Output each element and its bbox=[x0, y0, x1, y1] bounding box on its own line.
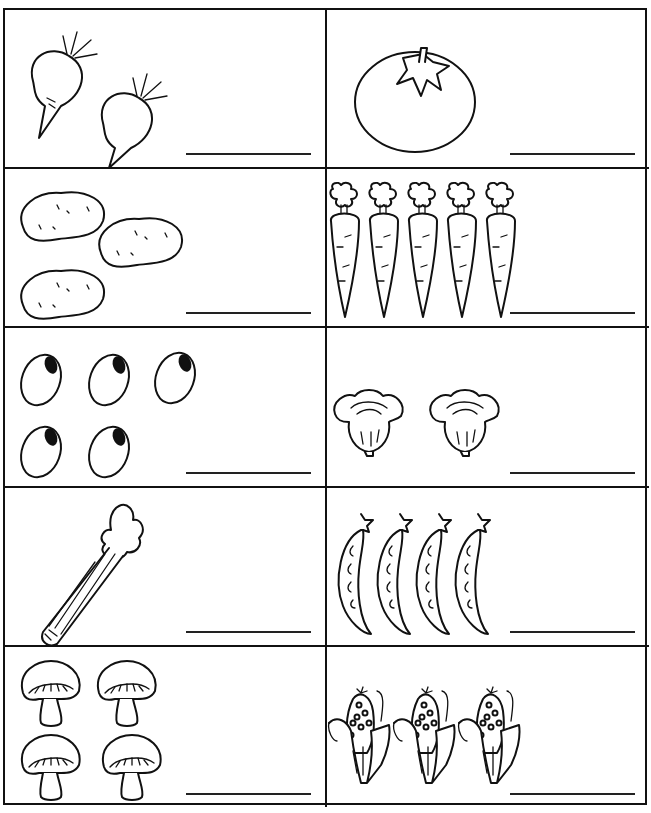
mushroom-icon bbox=[17, 733, 83, 803]
cell-tomato bbox=[327, 10, 649, 169]
cell-potatoes bbox=[5, 169, 327, 328]
carrot-icon bbox=[327, 181, 363, 321]
tomato-icon bbox=[353, 44, 479, 156]
answer-line[interactable] bbox=[186, 631, 311, 633]
answer-line[interactable] bbox=[510, 312, 635, 314]
lettuce-icon bbox=[331, 386, 407, 458]
answer-line[interactable] bbox=[510, 153, 635, 155]
carrot-icon bbox=[405, 181, 441, 321]
corn-icon bbox=[392, 687, 458, 791]
beet-icon bbox=[21, 26, 101, 136]
carrot-group bbox=[327, 175, 529, 320]
mushroom-icon bbox=[17, 659, 83, 729]
corn-group bbox=[327, 653, 499, 801]
cell-mushrooms bbox=[5, 647, 327, 807]
corn-icon bbox=[327, 687, 393, 791]
beet-group bbox=[13, 16, 175, 161]
bean-icon bbox=[19, 348, 67, 410]
cell-carrots bbox=[327, 169, 649, 328]
answer-line[interactable] bbox=[510, 472, 635, 474]
cell-corn bbox=[327, 647, 649, 807]
mushroom-group bbox=[13, 653, 175, 801]
carrot-icon bbox=[366, 181, 402, 321]
pea-pod-icon bbox=[450, 510, 496, 638]
corn-icon bbox=[457, 687, 523, 791]
beet-icon bbox=[91, 68, 171, 169]
potato-group bbox=[13, 175, 175, 320]
mushroom-icon bbox=[93, 659, 159, 729]
potato-icon bbox=[17, 265, 107, 323]
lettuce-group bbox=[335, 334, 499, 480]
carrot-icon bbox=[444, 181, 480, 321]
cell-lettuce bbox=[327, 328, 649, 488]
bean-icon bbox=[87, 348, 135, 410]
answer-line[interactable] bbox=[186, 153, 311, 155]
answer-line[interactable] bbox=[186, 312, 311, 314]
tomato-group bbox=[335, 16, 499, 161]
cell-peas bbox=[327, 488, 649, 647]
mushroom-icon bbox=[98, 733, 164, 803]
bean-group bbox=[13, 334, 175, 480]
pea-pod-group bbox=[335, 494, 499, 639]
bean-icon bbox=[19, 420, 67, 482]
answer-line[interactable] bbox=[510, 793, 635, 795]
worksheet-grid bbox=[3, 8, 647, 805]
bean-icon bbox=[153, 346, 201, 408]
answer-line[interactable] bbox=[186, 472, 311, 474]
carrot-icon bbox=[483, 181, 519, 321]
answer-line[interactable] bbox=[186, 793, 311, 795]
cell-beans bbox=[5, 328, 327, 488]
lettuce-icon bbox=[427, 386, 503, 458]
answer-line[interactable] bbox=[510, 631, 635, 633]
bean-icon bbox=[87, 420, 135, 482]
potato-icon bbox=[95, 213, 185, 271]
celery-icon bbox=[35, 502, 165, 647]
cell-celery bbox=[5, 488, 327, 647]
potato-icon bbox=[17, 187, 107, 245]
celery-group bbox=[13, 494, 175, 639]
cell-beets bbox=[5, 10, 327, 169]
